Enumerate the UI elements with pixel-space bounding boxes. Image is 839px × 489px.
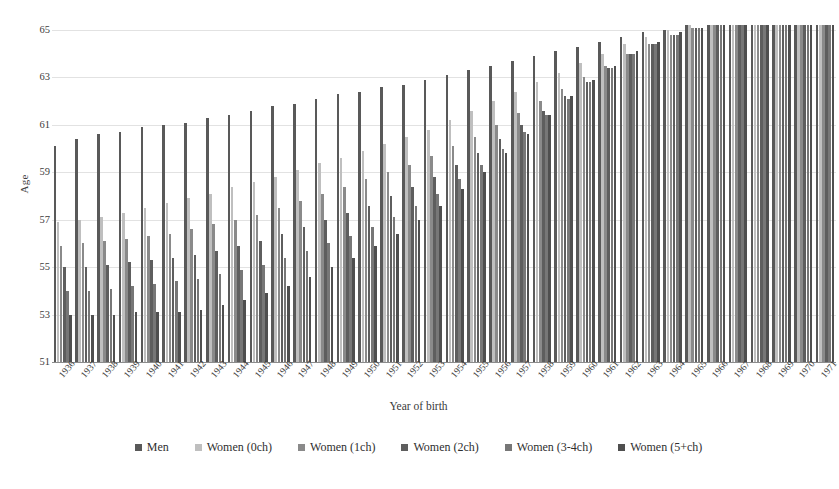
x-axis-tick-labels: 1936193719381939194019411942194319441945… [52, 364, 836, 398]
legend-label: Women (0ch) [207, 440, 272, 455]
x-axis-tick-cell: 1945 [248, 364, 270, 398]
bar[interactable] [679, 32, 682, 362]
bar[interactable] [832, 25, 835, 362]
legend-item[interactable]: Women (5+ch) [618, 440, 702, 455]
bar-group [335, 30, 357, 362]
bar[interactable] [461, 189, 464, 362]
x-axis-tick-cell: 1936 [52, 364, 74, 398]
bar[interactable] [614, 66, 617, 362]
x-axis-tick-cell: 1971 [814, 364, 836, 398]
x-axis-tick-cell: 1959 [553, 364, 575, 398]
bar-group [270, 30, 292, 362]
x-axis-tick-cell: 1952 [401, 364, 423, 398]
bar[interactable] [69, 315, 72, 362]
bar[interactable] [636, 51, 639, 362]
legend-item[interactable]: Women (2ch) [401, 440, 478, 455]
plot-area [52, 30, 836, 363]
bar[interactable] [548, 115, 551, 362]
x-axis-tick-cell: 1937 [74, 364, 96, 398]
bar[interactable] [243, 300, 246, 362]
bar-group [662, 30, 684, 362]
x-axis-tick-cell: 1962 [618, 364, 640, 398]
y-axis-tick: 55 [24, 262, 50, 272]
bar[interactable] [570, 96, 573, 362]
bar[interactable] [810, 25, 813, 362]
bar[interactable] [766, 25, 769, 362]
bar-group [640, 30, 662, 362]
legend-item[interactable]: Women (1ch) [298, 440, 375, 455]
bar-group [705, 30, 727, 362]
bar[interactable] [156, 312, 159, 362]
bar[interactable] [592, 80, 595, 362]
bar-group [117, 30, 139, 362]
x-axis-tick-cell: 1970 [793, 364, 815, 398]
legend-swatch-icon [618, 444, 625, 451]
bar[interactable] [352, 258, 355, 362]
bar[interactable] [505, 153, 508, 362]
bar-group [597, 30, 619, 362]
bar-group [313, 30, 335, 362]
bar[interactable] [287, 286, 290, 362]
bar[interactable] [744, 25, 747, 362]
bar[interactable] [527, 134, 530, 362]
bar[interactable] [178, 312, 181, 362]
x-axis-tick-cell: 1949 [335, 364, 357, 398]
y-axis-tick: 65 [24, 25, 50, 35]
x-axis-tick-cell: 1940 [139, 364, 161, 398]
bar[interactable] [418, 220, 421, 362]
x-axis-tick-cell: 1964 [662, 364, 684, 398]
bar-group [248, 30, 270, 362]
bar-group [204, 30, 226, 362]
legend-swatch-icon [195, 444, 202, 451]
legend-item[interactable]: Men [135, 440, 169, 455]
bar[interactable] [222, 305, 225, 362]
bar[interactable] [135, 312, 138, 362]
bar[interactable] [265, 293, 268, 362]
bar[interactable] [701, 28, 704, 362]
x-axis-tick-cell: 1961 [597, 364, 619, 398]
bar[interactable] [788, 25, 791, 362]
bar[interactable] [439, 206, 442, 363]
x-axis-tick-cell: 1967 [727, 364, 749, 398]
x-axis-tick-cell: 1942 [183, 364, 205, 398]
bar[interactable] [200, 310, 203, 362]
y-axis-tick: 57 [24, 215, 50, 225]
bar-group [357, 30, 379, 362]
bar[interactable] [396, 234, 399, 362]
bar[interactable] [483, 172, 486, 362]
x-axis-tick-cell: 1963 [640, 364, 662, 398]
y-axis-tick: 51 [24, 357, 50, 367]
legend-swatch-icon [298, 444, 305, 451]
bar[interactable] [657, 42, 660, 362]
bar-group [183, 30, 205, 362]
bar-group [727, 30, 749, 362]
x-axis-tick-cell: 1966 [705, 364, 727, 398]
x-axis-tick-cell: 1938 [96, 364, 118, 398]
x-axis-tick-cell: 1939 [117, 364, 139, 398]
bar[interactable] [309, 277, 312, 362]
bar[interactable] [113, 315, 116, 362]
bar-group [401, 30, 423, 362]
bar-group [618, 30, 640, 362]
x-axis-tick-cell: 1944 [226, 364, 248, 398]
x-axis-tick-cell: 1969 [771, 364, 793, 398]
legend-item[interactable]: Women (0ch) [195, 440, 272, 455]
bar-group [74, 30, 96, 362]
legend-swatch-icon [505, 444, 512, 451]
bar-group [684, 30, 706, 362]
bar-group [422, 30, 444, 362]
x-axis-tick-cell: 1950 [357, 364, 379, 398]
legend-item[interactable]: Women (3-4ch) [505, 440, 592, 455]
bar-group [531, 30, 553, 362]
bar[interactable] [723, 25, 726, 362]
x-axis-tick-cell: 1951 [379, 364, 401, 398]
bar[interactable] [331, 267, 334, 362]
bar[interactable] [374, 246, 377, 362]
bar-group [466, 30, 488, 362]
bar-group [96, 30, 118, 362]
bar-group [161, 30, 183, 362]
x-axis-tick-cell: 1946 [270, 364, 292, 398]
bar-group [575, 30, 597, 362]
x-axis-tick-cell: 1968 [749, 364, 771, 398]
bar[interactable] [91, 315, 94, 362]
